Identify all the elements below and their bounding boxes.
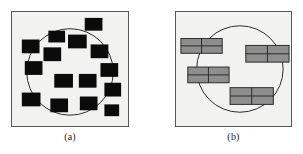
object-square — [91, 44, 109, 58]
data-object-1 — [85, 18, 103, 31]
data-object-6 — [43, 47, 61, 61]
object-square — [43, 47, 61, 61]
object-square — [22, 93, 41, 107]
caption-b: (b) — [175, 131, 292, 143]
object-square — [54, 74, 73, 88]
data-object-8 — [100, 63, 118, 77]
object-square — [80, 97, 98, 111]
panel-a-canvas — [12, 12, 128, 126]
object-square — [50, 98, 68, 112]
data-object-10 — [79, 74, 97, 88]
object-square — [48, 31, 65, 43]
bounding-box-4 — [230, 88, 273, 105]
caption-a: (a) — [11, 131, 129, 143]
figure-container: (a) (b) — [0, 0, 303, 154]
panel-b-canvas — [176, 12, 291, 126]
bounding-box-1 — [181, 39, 222, 54]
panel-a — [11, 11, 129, 127]
object-square — [85, 18, 103, 31]
data-object-14 — [80, 97, 98, 111]
panel-b — [175, 11, 292, 127]
data-object-15 — [104, 104, 119, 116]
object-square — [79, 74, 97, 88]
object-square — [22, 40, 40, 54]
data-object-12 — [22, 93, 41, 107]
bounding-box-3 — [188, 67, 229, 83]
data-object-4 — [68, 35, 87, 49]
data-object-3 — [22, 40, 40, 54]
object-square — [68, 35, 87, 49]
data-object-2 — [48, 31, 65, 43]
data-object-7 — [25, 61, 43, 75]
data-object-5 — [91, 44, 109, 58]
object-square — [104, 83, 121, 97]
data-object-13 — [50, 98, 68, 112]
object-square — [100, 63, 118, 77]
data-object-9 — [54, 74, 73, 88]
bounding-box-2 — [246, 45, 289, 62]
data-object-11 — [104, 83, 121, 97]
object-square — [25, 61, 43, 75]
object-square — [104, 104, 119, 116]
